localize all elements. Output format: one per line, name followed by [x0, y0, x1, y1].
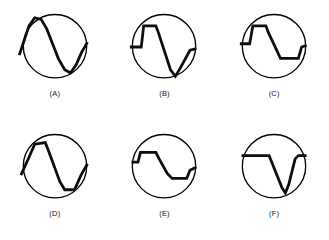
scope-panel-b: (B): [110, 0, 220, 120]
scope-bezel-circle: [23, 15, 86, 78]
panel-caption-d: (D): [49, 210, 60, 218]
scope-panel-c: (C): [219, 0, 329, 120]
oscilloscope-display-d: [16, 128, 94, 206]
oscilloscope-display-f: [235, 128, 313, 206]
waveform-figure: (A) (B) (C) (D): [0, 0, 329, 239]
oscilloscope-display-e: [125, 128, 203, 206]
scope-panel-d: (D): [0, 120, 110, 240]
panel-caption-a: (A): [50, 90, 61, 98]
panel-caption-f: (F): [269, 210, 279, 218]
panel-caption-c: (C): [269, 90, 280, 98]
panel-caption-b: (B): [159, 90, 170, 98]
oscilloscope-display-a: [16, 8, 94, 86]
panel-caption-e: (E): [159, 210, 170, 218]
scope-panel-a: (A): [0, 0, 110, 120]
panel-grid: (A) (B) (C) (D): [0, 0, 329, 239]
oscilloscope-display-b: [125, 8, 203, 86]
scope-panel-e: (E): [110, 120, 220, 240]
scope-panel-f: (F): [219, 120, 329, 240]
oscilloscope-display-c: [235, 8, 313, 86]
